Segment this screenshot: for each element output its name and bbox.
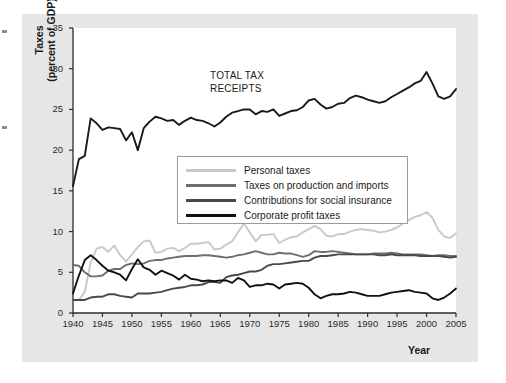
x-tick-label-1940: 1940: [58, 318, 88, 329]
y-tick-label-0: 0: [41, 307, 63, 318]
series-line-contributions-for-social-insurance: [73, 254, 456, 300]
y-tick-label-15: 15: [41, 185, 63, 196]
total-tax-receipts-annotation: TOTAL TAX RECEIPTS: [210, 70, 264, 95]
y-tick-label-25: 25: [41, 103, 63, 114]
legend-label-1: Taxes on production and imports: [244, 180, 389, 191]
x-tick-label-1950: 1950: [117, 318, 147, 329]
legend-swatch-2: [186, 199, 236, 202]
x-tick-label-2000: 2000: [412, 318, 442, 329]
annotation-line-1: TOTAL TAX: [210, 70, 264, 83]
chart-legend: Personal taxesTaxes on production and im…: [177, 156, 408, 224]
y-tick-label-20: 20: [41, 144, 63, 155]
legend-swatch-0: [186, 169, 236, 172]
x-tick-label-1975: 1975: [264, 318, 294, 329]
x-tick-label-1980: 1980: [294, 318, 324, 329]
legend-item-2[interactable]: Contributions for social insurance: [186, 193, 407, 207]
legend-label-0: Personal taxes: [244, 165, 310, 176]
y-tick-label-5: 5: [41, 266, 63, 277]
y-tick-label-35: 35: [41, 22, 63, 33]
legend-item-3[interactable]: Corporate profit taxes: [186, 208, 407, 222]
x-tick-label-1960: 1960: [176, 318, 206, 329]
x-axis-label: Year: [408, 344, 430, 356]
x-tick-label-2005: 2005: [441, 318, 471, 329]
x-tick-label-1955: 1955: [146, 318, 176, 329]
legend-label-3: Corporate profit taxes: [244, 210, 340, 221]
legend-item-0[interactable]: Personal taxes: [186, 163, 407, 177]
x-tick-label-1970: 1970: [235, 318, 265, 329]
x-tick-label-1990: 1990: [353, 318, 383, 329]
tax-receipts-figure: Taxes (percent of GDP) 05101520253035 19…: [0, 0, 506, 383]
x-tick-label-1995: 1995: [382, 318, 412, 329]
legend-swatch-1: [186, 184, 236, 187]
legend-item-1[interactable]: Taxes on production and imports: [186, 178, 407, 192]
x-tick-label-1985: 1985: [323, 318, 353, 329]
legend-swatch-3: [186, 214, 236, 217]
annotation-line-2: RECEIPTS: [210, 83, 264, 96]
x-tick-label-1965: 1965: [205, 318, 235, 329]
series-line-corporate-profit-taxes: [73, 255, 456, 300]
x-tick-label-1945: 1945: [87, 318, 117, 329]
y-tick-label-30: 30: [41, 63, 63, 74]
y-tick-label-10: 10: [41, 226, 63, 237]
legend-label-2: Contributions for social insurance: [244, 195, 392, 206]
